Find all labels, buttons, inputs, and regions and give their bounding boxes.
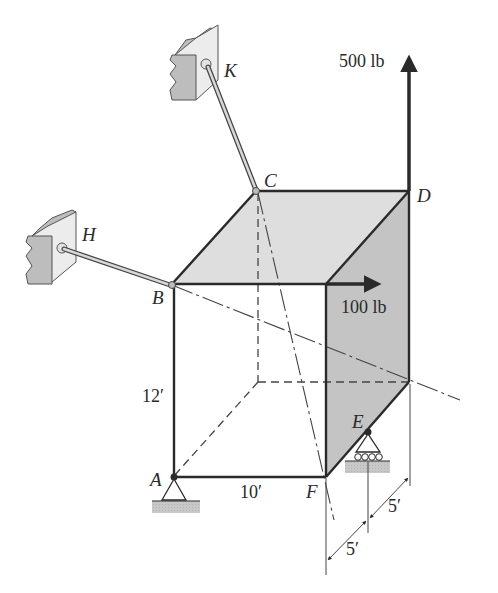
label-f: F: [305, 481, 318, 502]
dimension-width: 10′: [240, 482, 262, 502]
label-d: D: [416, 185, 431, 206]
dimension-depth-1: 5′: [388, 496, 401, 516]
cable-ck: [208, 67, 256, 190]
label-k: K: [223, 60, 238, 81]
diagram-canvas: K C D H B E A F 500 lb 100 lb 12′ 10′ 5′…: [0, 0, 498, 593]
cable-bh: [64, 249, 170, 285]
joint-b: [169, 282, 176, 289]
label-h: H: [81, 224, 97, 245]
label-c: C: [264, 170, 277, 191]
force-label-500lb: 500 lb: [339, 51, 385, 71]
label-e: E: [351, 411, 364, 432]
force-label-100lb: 100 lb: [341, 297, 387, 317]
wall-support-h: [26, 210, 76, 284]
label-a: A: [148, 469, 162, 490]
joint-c: [253, 188, 260, 195]
wall-support-k: [170, 25, 218, 100]
dimension-height: 12′: [142, 386, 164, 406]
label-b: B: [152, 287, 164, 308]
dimension-depth-2: 5′: [346, 539, 359, 559]
